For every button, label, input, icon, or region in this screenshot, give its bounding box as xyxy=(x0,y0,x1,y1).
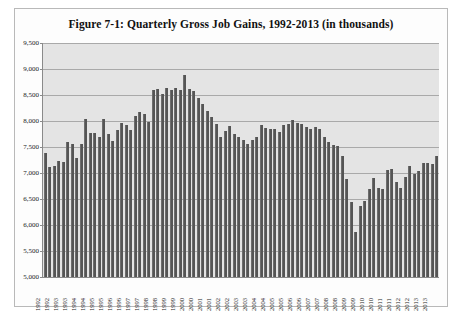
x-tick-label: 1997 xyxy=(124,298,131,311)
y-tick-label: 6,000 xyxy=(23,221,39,229)
bar xyxy=(359,206,362,277)
bar xyxy=(291,120,294,277)
x-tick-label: 2003 xyxy=(241,298,248,311)
bar xyxy=(395,182,398,277)
bar xyxy=(71,144,74,277)
x-tick-label: 1993 xyxy=(61,298,68,311)
x-tick-label: 2012 xyxy=(394,298,401,311)
bar xyxy=(431,164,434,277)
x-tick-label: 2007 xyxy=(304,298,311,311)
bar xyxy=(228,126,231,277)
bar xyxy=(242,140,245,277)
bar xyxy=(89,133,92,277)
bar xyxy=(336,146,339,277)
x-tick-label: 2012 xyxy=(403,298,410,311)
bar xyxy=(165,88,168,277)
bar xyxy=(363,201,366,277)
bar xyxy=(345,179,348,277)
x-tick-label: 2004 xyxy=(250,298,257,311)
bar xyxy=(138,112,141,277)
bar xyxy=(426,163,429,277)
bar xyxy=(219,137,222,277)
bar xyxy=(197,98,200,277)
x-tick-label: 1993 xyxy=(52,298,59,311)
bar xyxy=(62,162,65,277)
bar xyxy=(156,89,159,277)
x-tick-label: 1995 xyxy=(88,298,95,311)
bar xyxy=(98,137,101,277)
x-tick-label: 1994 xyxy=(70,298,77,311)
bar xyxy=(215,124,218,277)
bar xyxy=(354,232,357,277)
bar xyxy=(147,122,150,277)
bar xyxy=(188,89,191,277)
bar xyxy=(422,163,425,277)
x-tick-label: 1998 xyxy=(151,298,158,311)
bar xyxy=(269,129,272,277)
figure-frame: Figure 7-1: Quarterly Gross Job Gains, 1… xyxy=(14,8,448,307)
bar xyxy=(296,123,299,277)
bar xyxy=(129,130,132,277)
plot-area: 5,0005,5006,0006,5007,0007,5008,0008,500… xyxy=(42,43,439,278)
x-tick-label: 2013 xyxy=(421,298,428,311)
x-tick-label: 1999 xyxy=(169,298,176,311)
x-axis-labels-group: 1992199219931993199419941995199519961996… xyxy=(42,279,438,313)
x-tick-label: 1996 xyxy=(115,298,122,311)
x-tick-label: 2007 xyxy=(313,298,320,311)
y-tick-label: 9,500 xyxy=(23,39,39,47)
bar xyxy=(282,125,285,277)
chart-title: Figure 7-1: Quarterly Gross Job Gains, 1… xyxy=(15,18,447,30)
bars-group xyxy=(43,43,439,277)
bar xyxy=(210,117,213,277)
bar xyxy=(372,178,375,277)
bar xyxy=(116,130,119,277)
y-tick-label: 8,000 xyxy=(23,117,39,125)
x-tick-label: 2002 xyxy=(214,298,221,311)
x-tick-label: 2011 xyxy=(376,298,383,311)
bar xyxy=(125,125,128,277)
bar xyxy=(237,137,240,277)
bar xyxy=(251,140,254,277)
bar xyxy=(368,189,371,277)
y-tick-label: 8,500 xyxy=(23,91,39,99)
bar xyxy=(435,156,438,277)
x-tick-label: 2013 xyxy=(412,298,419,311)
x-tick-label: 1998 xyxy=(142,298,149,311)
y-tick-label: 9,000 xyxy=(23,65,39,73)
bar xyxy=(75,158,78,277)
bar xyxy=(300,124,303,277)
bar xyxy=(66,142,69,277)
x-tick-label: 2001 xyxy=(196,298,203,311)
x-tick-label: 1992 xyxy=(34,298,41,311)
bar xyxy=(183,75,186,277)
bar xyxy=(413,174,416,277)
bar xyxy=(93,133,96,277)
bar xyxy=(305,127,308,277)
x-tick-label: 2008 xyxy=(322,298,329,311)
bar xyxy=(111,141,114,277)
bar xyxy=(134,116,137,277)
x-tick-label: 1997 xyxy=(133,298,140,311)
bar xyxy=(260,125,263,277)
bar xyxy=(314,127,317,277)
bar xyxy=(246,144,249,277)
bar xyxy=(174,88,177,277)
x-tick-label: 2010 xyxy=(367,298,374,311)
y-tick-mark xyxy=(40,277,43,278)
bar xyxy=(417,171,420,277)
bar xyxy=(287,124,290,277)
x-tick-label: 1996 xyxy=(106,298,113,311)
bar xyxy=(161,94,164,277)
bar xyxy=(318,129,321,277)
x-tick-label: 2009 xyxy=(340,298,347,311)
x-tick-label: 2006 xyxy=(286,298,293,311)
bar xyxy=(48,167,51,277)
bar xyxy=(264,128,267,277)
x-tick-label: 2000 xyxy=(187,298,194,311)
y-tick-label: 6,500 xyxy=(23,195,39,203)
bar xyxy=(107,134,110,277)
x-tick-label: 2001 xyxy=(205,298,212,311)
bar xyxy=(323,137,326,277)
bar xyxy=(170,90,173,277)
y-tick-label: 7,500 xyxy=(23,143,39,151)
